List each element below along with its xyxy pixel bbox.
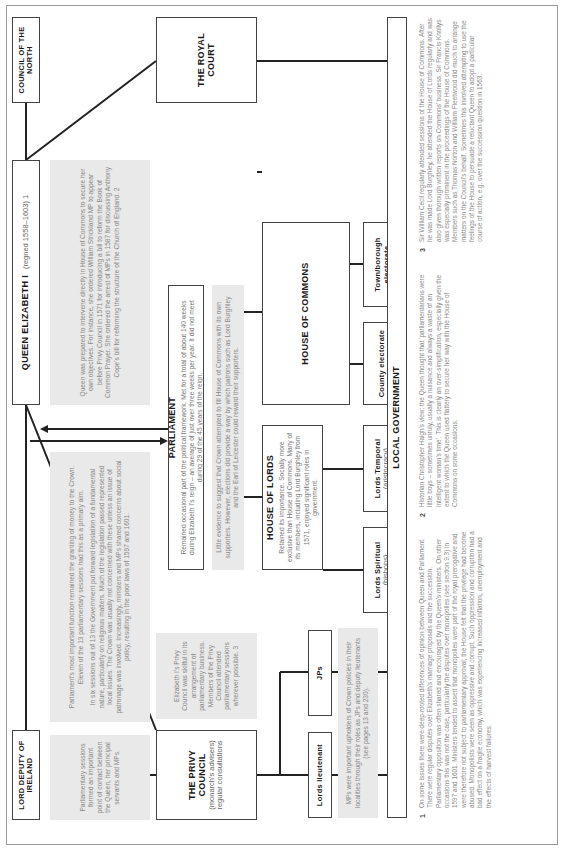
county-electorate-title: County electorate [378,330,386,398]
footnote-1: 1 On some issues there were deep-rooted … [418,528,548,818]
parliament-description: Remained occasional part of the politica… [180,292,205,563]
parliament-function-text-1: Parliament's most important function rem… [68,458,85,716]
house-of-commons-box: HOUSE OF COMMONS [262,222,350,405]
footnote-2: 2 Historian Christopher Haigh's view: th… [418,267,548,517]
privy-skill-note: Elizabeth I's Privy Council was skilful … [156,633,257,719]
jps-title: JPs [316,666,324,680]
house-of-lords-description: Retained its importance. Socially more e… [278,432,319,563]
sessions-contact-text: Parliamentary sessions formed an importa… [79,741,121,814]
footnote-2-text: Historian Christopher Haigh's view: the … [418,267,460,517]
queen-title: QUEEN ELIZABETH I [21,275,31,370]
queen-intervene-text: Queen was prepared to intervene directly… [79,166,121,399]
house-of-lords-title: HOUSE OF LORDS [266,455,276,540]
local-government-title: LOCAL GOVERNMENT [392,366,402,469]
local-government-bar: LOCAL GOVERNMENT [387,17,407,818]
lord-deputy-ireland-box: LORD DEPUTY OF IRELAND [12,730,40,820]
parliament-function-note: Parliament's most important function rem… [50,452,150,722]
diagram-canvas: COUNCIL OF THE NORTH QUEEN ELIZABETH I (… [0,0,564,852]
jps-box: JPs [308,630,332,716]
mps-upholders-text: MPs were important upholders of Crown po… [345,634,370,812]
council-of-north-title: COUNCIL OF THE NORTH [18,18,34,102]
privy-council-title: THE PRIVY COUNCIL [188,731,208,819]
crown-fill-note: Little evidence to suggest that Crown at… [212,285,244,570]
lords-lieutenant-title: Lords lieutenant [316,744,324,806]
lord-deputy-title: LORD DEPUTY OF IRELAND [18,731,34,819]
mps-upholders-note: MPs were important upholders of Crown po… [338,628,378,818]
footnote-3-text: Sir William Cecil regularly attended ses… [418,17,485,252]
house-of-lords-box: HOUSE OF LORDS Retained its importance. … [262,425,323,570]
sessions-contact-note: Parliamentary sessions formed an importa… [50,735,150,820]
footnote-1-number: 1 [418,814,427,818]
council-of-north-box: COUNCIL OF THE NORTH [12,17,40,103]
royal-court-title: THE ROYAL COURT [197,18,217,102]
footnote-2-number: 2 [418,513,427,517]
crown-fill-text: Little evidence to suggest that Crown at… [215,291,240,564]
lords-lieutenant-box: Lords lieutenant [308,732,332,818]
footnote-3: 3 Sir William Cecil regularly attended s… [418,17,548,252]
privy-council-box: THE PRIVY COUNCIL (monarch's advisers) r… [156,730,257,820]
parliament-title: PARLIAMENT [168,397,178,458]
privy-skill-text: Elizabeth I's Privy Council was skilful … [173,639,241,713]
privy-council-subtitle: (monarch's advisers) regular consultatio… [208,731,225,819]
royal-court-box: THE ROYAL COURT [156,17,257,103]
footnote-1-text: On some issues there were deep-rooted di… [418,528,493,818]
queen-intervene-note: Queen was prepared to intervene directly… [50,160,150,405]
queen-reign: (regned 1558–1603) 1 [22,195,31,269]
house-of-commons-title: HOUSE OF COMMONS [301,262,311,364]
parliament-box: PARLIAMENT Remained occasional part of t… [168,285,204,570]
parliament-function-text-2: In six sessions out of 13 the Government… [89,458,131,716]
queen-elizabeth-box: QUEEN ELIZABETH I (regned 1558–1603) 1 [12,160,40,405]
footnote-3-number: 3 [418,248,427,252]
